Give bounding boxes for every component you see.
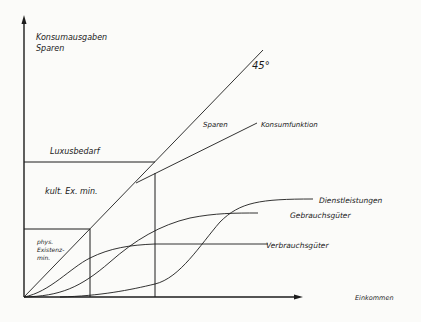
y-axis-label-savings: Sparen (36, 44, 64, 53)
phys-min-label-3: min. (37, 254, 50, 261)
curve-gebrauchsgueter (24, 213, 258, 297)
x-axis-arrow-icon (294, 295, 303, 300)
y-axis-arrow-icon (22, 15, 27, 24)
verbrauchsgueter-label: Verbrauchsgüter (266, 241, 329, 250)
consumption-function-line (136, 123, 257, 183)
dienstleistungen-label: Dienstleistungen (319, 196, 383, 205)
consumption-diagram: Konsumausgaben Sparen 45° Sparen Konsumf… (0, 0, 421, 322)
consumption-function-label: Konsumfunktion (261, 121, 318, 129)
phys-min-label-1: phys. (36, 238, 53, 246)
luxus-label: Luxusbedarf (50, 147, 101, 156)
gebrauchsgueter-label: Gebrauchsgüter (290, 211, 351, 220)
kult-ex-min-label: kult. Ex. min. (45, 187, 98, 196)
savings-label: Sparen (203, 121, 228, 129)
angle-label: 45° (252, 60, 270, 71)
x-axis-label: Einkommen (355, 294, 394, 302)
line-45-degree (24, 50, 263, 297)
phys-min-label-2: Existenz- (37, 246, 64, 253)
y-axis-label: Konsumausgaben (36, 33, 107, 42)
